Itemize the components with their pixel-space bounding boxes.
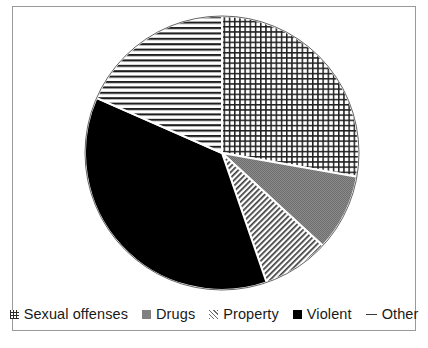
legend-label-violent: Violent	[307, 307, 352, 322]
legend-item-property[interactable]: Property	[209, 307, 279, 322]
diagonal-hatch-swatch-icon	[209, 310, 218, 319]
legend-label-drugs: Drugs	[156, 307, 195, 322]
legend-item-drugs[interactable]: Drugs	[142, 307, 195, 322]
solid-gray-swatch-icon	[142, 310, 151, 319]
solid-black-swatch-icon	[293, 310, 302, 319]
pie-svg	[0, 0, 428, 292]
grid-swatch-icon	[10, 310, 19, 319]
pie-slice-sexual-offenses[interactable]	[222, 16, 359, 177]
chart-legend: Sexual offenses Drugs Property Violent O…	[13, 300, 415, 328]
legend-label-sexual-offenses: Sexual offenses	[24, 307, 128, 322]
legend-item-violent[interactable]: Violent	[293, 307, 352, 322]
legend-item-sexual-offenses[interactable]: Sexual offenses	[10, 307, 128, 322]
dash-line-swatch-icon	[366, 310, 377, 319]
pie-plot-area	[0, 0, 428, 292]
legend-item-other[interactable]: Other	[366, 307, 419, 322]
legend-label-property: Property	[223, 307, 279, 322]
legend-label-other: Other	[382, 307, 419, 322]
pie-slices-group	[85, 16, 359, 290]
pie-chart-figure: Sexual offenses Drugs Property Violent O…	[0, 0, 428, 348]
